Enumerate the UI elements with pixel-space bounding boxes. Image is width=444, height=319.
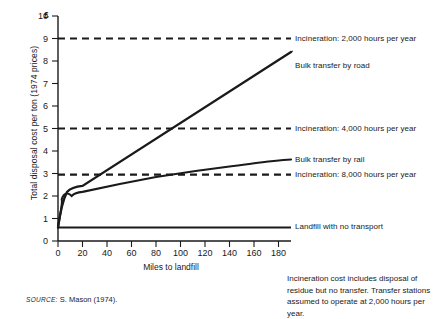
- figure-note: Incineration cost includes disposal of r…: [287, 273, 439, 319]
- x-tick-label: 60: [121, 248, 143, 258]
- source-label: SOURCE:: [26, 296, 58, 303]
- x-tick-label: 40: [96, 248, 118, 258]
- x-tick-label: 140: [219, 248, 241, 258]
- y-tick-label: 0: [30, 236, 48, 246]
- y-tick-label: 4: [30, 146, 48, 156]
- y-tick-label: 9: [30, 34, 48, 44]
- x-tick-label: 160: [243, 248, 265, 258]
- bulk-transfer-by-road-line: [58, 52, 291, 228]
- y-tick-label: 2: [30, 191, 48, 201]
- annotation-bulk-transfer-by-road: Bulk transfer by road: [295, 61, 370, 70]
- y-tick-label: 5: [30, 124, 48, 134]
- annotation-bulk-transfer-by-rail: Bulk transfer by rail: [295, 155, 365, 164]
- annotation-incineration-4000: Incineration: 4,000 hours per year: [295, 124, 416, 133]
- annotation-landfill-no-transport: Landfill with no transport: [295, 222, 383, 231]
- x-tick-label: 20: [72, 248, 94, 258]
- x-tick-label: 100: [170, 248, 192, 258]
- x-axis-title: Miles to landfill: [96, 262, 246, 272]
- source-text: S. Mason (1974).: [60, 295, 118, 304]
- y-tick-marks: [52, 16, 58, 241]
- y-tick-label: 1: [30, 214, 48, 224]
- y-tick-label: 8: [30, 56, 48, 66]
- x-tick-label: 0: [47, 248, 69, 258]
- source-line: SOURCE: S. Mason (1974).: [26, 295, 117, 304]
- x-tick-label: 120: [194, 248, 216, 258]
- bulk-transfer-by-rail-line: [58, 160, 291, 228]
- x-tick-marks: [58, 241, 279, 247]
- x-tick-label: 80: [145, 248, 167, 258]
- y-tick-label: 7: [30, 79, 48, 89]
- annotation-incineration-8000: Incineration: 8,000 hours per year: [295, 170, 416, 179]
- y-tick-label: 3: [30, 169, 48, 179]
- x-tick-label: 180: [268, 248, 290, 258]
- y-tick-label: 10: [26, 11, 48, 21]
- y-tick-label: 6: [30, 101, 48, 111]
- annotation-incineration-2000: Incineration: 2,000 hours per year: [295, 34, 416, 43]
